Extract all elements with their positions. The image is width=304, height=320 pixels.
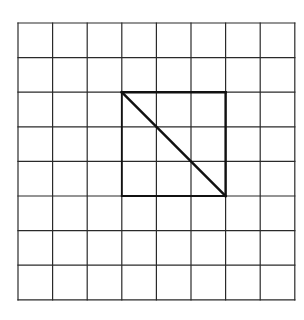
square-diagonal xyxy=(122,92,226,196)
grid-lines xyxy=(18,23,295,300)
square-with-diagonal xyxy=(122,92,226,196)
grid-diagram xyxy=(0,0,304,320)
